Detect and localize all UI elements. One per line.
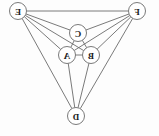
graph-node-circle-d <box>68 108 85 125</box>
graph-node-circle-b <box>83 47 100 64</box>
graph-node-d[interactable]: D <box>68 108 85 125</box>
nodes-group: FECBAD <box>10 3 146 125</box>
graph-node-circle-c <box>70 25 87 42</box>
graph-node-circle-a <box>59 47 76 64</box>
graph-edge-c-a <box>71 41 74 48</box>
graph-svg: FECBAD <box>0 0 159 136</box>
graph-edge-f-c <box>86 14 129 30</box>
graph-node-c[interactable]: C <box>70 25 87 42</box>
graph-node-b[interactable]: B <box>83 47 100 64</box>
graph-node-circle-e <box>10 3 27 20</box>
graph-node-circle-f <box>129 3 146 20</box>
graph-node-f[interactable]: F <box>129 3 146 20</box>
graph-node-e[interactable]: E <box>10 3 27 20</box>
graph-edge-c-b <box>82 40 86 47</box>
graph-edge-a-d <box>68 63 75 107</box>
graph-edge-b-d <box>78 63 89 107</box>
graph-diagram-canvas: FECBAD <box>0 0 159 136</box>
graph-edge-e-c <box>26 14 70 30</box>
graph-node-a[interactable]: A <box>59 47 76 64</box>
graph-edge-f-d <box>80 18 132 108</box>
